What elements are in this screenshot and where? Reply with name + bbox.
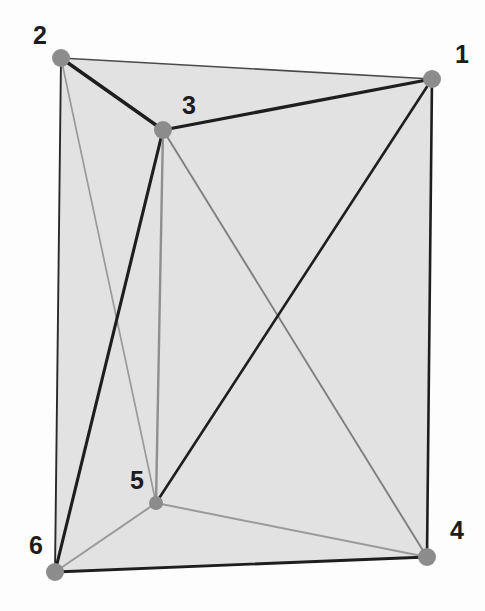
polygon-face-2-3-5-6 (55, 58, 163, 572)
vertex-label-1: 1 (455, 42, 469, 67)
vertex-node-5[interactable] (149, 496, 163, 510)
vertex-node-4[interactable] (418, 548, 436, 566)
vertex-node-1[interactable] (423, 70, 441, 88)
vertex-node-6[interactable] (46, 563, 64, 581)
vertex-label-6: 6 (29, 533, 43, 558)
vertex-node-3[interactable] (154, 121, 172, 139)
vertex-label-2: 2 (33, 23, 47, 48)
polyhedron-diagram (0, 0, 485, 611)
figure-container: a partial line of reversed show-through … (0, 0, 485, 611)
vertex-label-3: 3 (182, 93, 196, 118)
vertex-label-5: 5 (130, 468, 144, 493)
vertex-node-2[interactable] (52, 49, 70, 67)
vertex-label-4: 4 (450, 518, 464, 543)
face-group (55, 58, 432, 572)
